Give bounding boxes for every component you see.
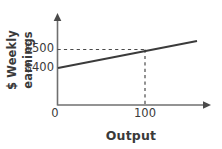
- x-tick-label-100: 100: [128, 108, 162, 120]
- y-axis-arrow-icon: [54, 13, 62, 21]
- x-tick-label-0: 0: [43, 108, 67, 120]
- x-axis-arrow-icon: [203, 101, 211, 109]
- earnings-output-chart: $500 $400 0 100 Output $ Weekly earnings: [0, 0, 222, 149]
- y-axis-title-container: $ Weekly earnings: [4, 10, 20, 110]
- y-axis-title: $ Weekly earnings: [4, 10, 36, 110]
- x-axis-title: Output: [96, 130, 166, 143]
- earnings-series-line: [58, 41, 197, 68]
